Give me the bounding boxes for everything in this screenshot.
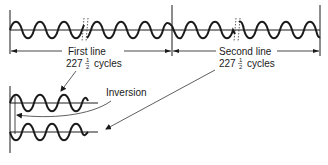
second-line-cycles-unit: cycles: [247, 58, 275, 69]
arrowhead-icon: [173, 49, 179, 53]
inversion-label: Inversion: [106, 87, 147, 98]
second-line-label: Second line: [219, 46, 272, 57]
second-line-cycles-whole: 227: [219, 58, 236, 69]
first-line-label: First line: [68, 46, 106, 57]
arrowhead-icon: [165, 49, 171, 53]
arrowhead-icon: [313, 49, 319, 53]
bottom-waveform-group: Inversion: [10, 86, 147, 153]
second-line-cycles-den: 2: [239, 64, 243, 70]
arrowhead-icon: [11, 49, 17, 53]
second-line-cycles-num: 1: [239, 57, 243, 63]
first-line-cycles-den: 2: [86, 64, 90, 70]
first-line-cycles-num: 1: [86, 57, 90, 63]
first-line-cycles-unit: cycles: [94, 58, 122, 69]
second-line-pointer-arrow: [106, 70, 215, 129]
first-line-pointer-arrow: [61, 71, 76, 91]
diagram-canvas: First line 227 1 2 cycles Second line 22…: [0, 0, 328, 165]
first-line-cycles-whole: 227: [66, 58, 83, 69]
top-waveform-group: First line 227 1 2 cycles Second line 22…: [10, 5, 320, 70]
